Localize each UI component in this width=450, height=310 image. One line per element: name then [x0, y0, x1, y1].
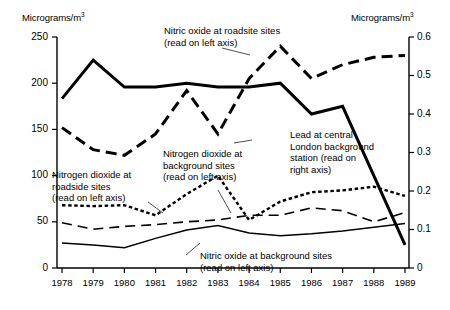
x-axis-tick-label: 1985 — [265, 277, 295, 288]
y-axis-right-tick-label: 0.1 — [417, 223, 443, 234]
annotation-line: (read on left axis) — [200, 262, 332, 274]
annotation-line: Nitric oxide at background sites — [200, 250, 332, 262]
chart-container: Micrograms/m3 Micrograms/m3 050100150200… — [0, 0, 450, 310]
annotation-line: Nitrogen dioxide at — [52, 169, 131, 181]
x-axis-tick-label: 1979 — [78, 277, 108, 288]
annotation-line: background sites — [163, 160, 242, 172]
annotation-no2-background: Nitrogen dioxide at background sites (re… — [163, 148, 242, 183]
annotation-line: station (read on — [290, 152, 374, 164]
x-axis-tick-label: 1986 — [296, 277, 326, 288]
x-axis-tick-label: 1983 — [203, 277, 233, 288]
y-axis-left-tick-label: 200 — [22, 77, 48, 88]
y-axis-right-tick-label: 0.4 — [417, 108, 443, 119]
x-axis-tick-label: 1984 — [234, 277, 264, 288]
annotation-line: Nitrogen dioxide at — [163, 148, 242, 160]
annotation-line: (read on left axis) — [164, 37, 280, 49]
annotation-line: (read on left axis) — [52, 192, 131, 204]
x-axis-tick-label: 1980 — [109, 277, 139, 288]
y-axis-left-tick-label: 100 — [22, 169, 48, 180]
x-axis-tick-label: 1987 — [328, 277, 358, 288]
x-axis-tick-label: 1989 — [390, 277, 420, 288]
x-axis-tick-label: 1981 — [141, 277, 171, 288]
annotation-lead: Lead at central London background statio… — [290, 129, 374, 175]
x-axis-tick-label: 1982 — [172, 277, 202, 288]
annotation-line: Lead at central — [290, 129, 374, 141]
annotation-line: Nitric oxide at roadsite sites — [164, 25, 280, 37]
annotation-no2-roadside: Nitrogen dioxide at roadside sites (read… — [52, 169, 131, 204]
x-axis-tick-label: 1978 — [47, 277, 77, 288]
annotation-nitric-oxide-roadside: Nitric oxide at roadsite sites (read on … — [164, 25, 280, 48]
annotation-line: right axis) — [290, 164, 374, 176]
series-line-3 — [62, 208, 405, 229]
y-axis-right-tick-label: 0.6 — [417, 31, 443, 42]
y-axis-right-tick-label: 0.2 — [417, 185, 443, 196]
y-axis-left-tick-label: 250 — [22, 31, 48, 42]
y-axis-right-tick-label: 0.5 — [417, 69, 443, 80]
x-axis-tick-label: 1988 — [359, 277, 389, 288]
y-axis-left-tick-label: 150 — [22, 123, 48, 134]
y-axis-right-tick-label: 0.3 — [417, 146, 443, 157]
annotation-line: (read on left axis) — [163, 171, 242, 183]
y-axis-right-tick-label: 0 — [417, 262, 443, 273]
annotation-no-background: Nitric oxide at background sites (read o… — [200, 250, 332, 273]
annotation-line: roadside sites — [52, 181, 131, 193]
annotation-line: London background — [290, 141, 374, 153]
y-axis-left-tick-label: 0 — [22, 262, 48, 273]
y-axis-left-tick-label: 50 — [22, 215, 48, 226]
